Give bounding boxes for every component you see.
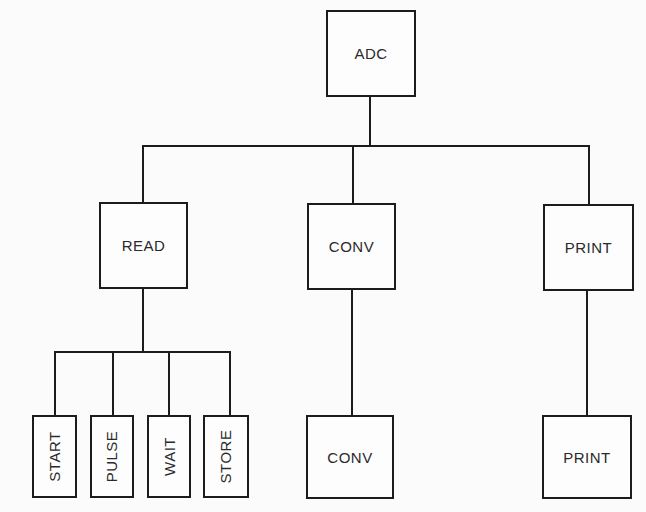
node-adc: ADC bbox=[326, 10, 416, 97]
connector-to-wait bbox=[168, 351, 170, 416]
node-print: PRINT bbox=[543, 204, 634, 291]
node-label: PRINT bbox=[565, 239, 613, 256]
node-pulse: PULSE bbox=[90, 415, 134, 498]
hierarchy-diagram: ADC READ CONV PRINT START PULSE WAIT STO… bbox=[0, 0, 646, 512]
node-label: PULSE bbox=[104, 431, 121, 483]
connector-read-down bbox=[142, 288, 144, 353]
node-read: READ bbox=[99, 202, 188, 289]
connector-to-conv bbox=[352, 145, 354, 204]
node-store: STORE bbox=[203, 415, 249, 498]
connector-to-store bbox=[229, 351, 231, 416]
node-conv: CONV bbox=[307, 203, 396, 290]
connector-to-print bbox=[588, 145, 590, 205]
connector-print-down bbox=[586, 290, 588, 416]
node-label: CONV bbox=[327, 449, 372, 466]
node-label: CONV bbox=[329, 238, 374, 255]
node-label: ADC bbox=[354, 45, 387, 62]
node-label: START bbox=[46, 431, 63, 481]
connector-to-pulse bbox=[112, 351, 114, 416]
node-print-child: PRINT bbox=[542, 415, 632, 499]
connector-conv-down bbox=[351, 289, 353, 416]
node-label: READ bbox=[122, 237, 166, 254]
node-wait: WAIT bbox=[147, 415, 191, 498]
connector-to-read bbox=[142, 145, 144, 203]
node-label: STORE bbox=[218, 430, 235, 484]
connector-adc-down bbox=[369, 96, 371, 147]
node-start: START bbox=[32, 415, 77, 498]
node-conv-child: CONV bbox=[306, 415, 394, 499]
connector-read-bus bbox=[54, 351, 231, 353]
node-label: PRINT bbox=[563, 449, 611, 466]
node-label: WAIT bbox=[161, 437, 178, 476]
connector-top-bus bbox=[142, 145, 590, 147]
connector-to-start bbox=[54, 351, 56, 416]
